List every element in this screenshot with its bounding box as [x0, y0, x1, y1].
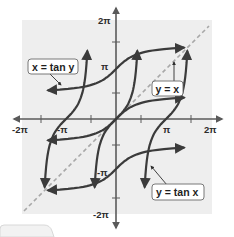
- y-tick-label-pi: π: [101, 61, 109, 72]
- graph-tan-and-inverse: -2π -π π 2π 2π π -π -2π x = tan y y = x …: [0, 0, 234, 237]
- y-tick-label-neg-pi: -π: [97, 167, 108, 178]
- y-tick-label-2pi: 2π: [98, 15, 111, 26]
- x-tick-label-pi: π: [163, 124, 171, 135]
- x-tick-label-neg-pi: -π: [57, 124, 68, 135]
- svg-text:x = tan y: x = tan y: [32, 61, 74, 73]
- svg-text:y = x: y = x: [156, 83, 180, 95]
- x-tick-label-neg-2pi: -2π: [12, 124, 28, 135]
- page-tab-decoration: [0, 225, 54, 237]
- y-tick-label-neg-2pi: -2π: [93, 209, 109, 220]
- svg-text:y = tan x: y = tan x: [156, 186, 198, 198]
- x-tick-label-2pi: 2π: [204, 124, 217, 135]
